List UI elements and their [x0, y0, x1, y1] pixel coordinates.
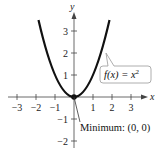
x-axis-arrow-icon: [141, 95, 148, 100]
y-tick-label: −1: [57, 114, 68, 125]
minimum-label: Minimum: (0, 0): [80, 122, 151, 134]
function-exponent: 2: [136, 68, 140, 76]
x-tick-label: 2: [110, 102, 115, 113]
y-tick-label: 3: [63, 26, 68, 37]
y-axis-label: y: [69, 1, 75, 12]
y-tick-label: 1: [63, 70, 68, 81]
y-axis-arrow-icon: [72, 12, 77, 19]
x-tick-label: 3: [129, 102, 134, 113]
minimum-leader-line: [74, 97, 80, 122]
x-tick-label: −3: [12, 102, 23, 113]
chart: −3 −2 −1 1 2 3 3 2 1 −1 −2 x y Minimum: …: [0, 0, 161, 151]
function-label: f(x) = x2: [104, 68, 140, 81]
x-axis-label: x: [149, 91, 155, 102]
y-tick-label: −2: [57, 136, 68, 147]
x-tick-label: −2: [31, 102, 42, 113]
x-tick-label: 1: [91, 102, 96, 113]
y-tick-label: 2: [63, 48, 68, 59]
x-tick-label: −1: [50, 102, 61, 113]
